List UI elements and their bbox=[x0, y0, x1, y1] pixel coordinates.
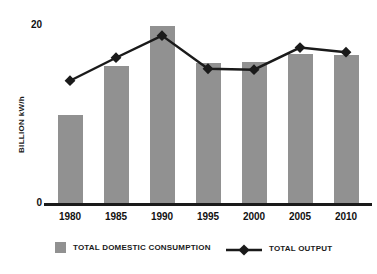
legend-label-line: TOTAL OUTPUT bbox=[269, 244, 332, 253]
legend-item-total-output: TOTAL OUTPUT bbox=[226, 242, 332, 254]
legend-label-bars: TOTAL DOMESTIC CONSUMPTION bbox=[73, 243, 211, 252]
data-point-marker-1985 bbox=[111, 52, 122, 63]
chart-legend: TOTAL DOMESTIC CONSUMPTION TOTAL OUTPUT bbox=[0, 240, 377, 262]
legend-item-total-domestic-consumption: TOTAL DOMESTIC CONSUMPTION bbox=[55, 242, 211, 253]
y-axis-tick-max: 20 bbox=[16, 19, 42, 30]
y-axis-tick-min: 0 bbox=[16, 197, 42, 208]
x-axis-tick-2010: 2010 bbox=[319, 211, 373, 222]
data-point-marker-1980 bbox=[65, 75, 76, 86]
chart-container: BILLION kW/h 20 0 1980198519901995200020… bbox=[0, 0, 377, 274]
line-series-total-output bbox=[47, 20, 369, 204]
data-point-marker-2005 bbox=[295, 42, 306, 53]
plot-area bbox=[47, 20, 369, 204]
data-point-marker-2000 bbox=[249, 64, 260, 75]
gray-square-icon bbox=[55, 242, 66, 253]
line-diamond-marker-icon bbox=[226, 242, 262, 254]
data-point-marker-2010 bbox=[341, 47, 352, 58]
y-axis-title: BILLION kW/h bbox=[17, 60, 26, 190]
x-axis-line bbox=[44, 203, 372, 206]
